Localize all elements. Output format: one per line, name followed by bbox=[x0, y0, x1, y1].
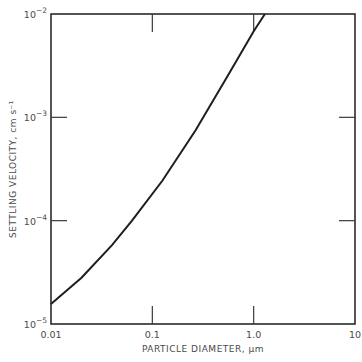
x-ticks: 0.010.11.010 bbox=[40, 14, 361, 340]
y-tick-label: 10−4 bbox=[24, 213, 47, 227]
settling-velocity-chart: 0.010.11.010 10−510−410−310−2 PARTICLE D… bbox=[0, 0, 362, 362]
y-tick-label: 10−5 bbox=[24, 316, 47, 330]
settling-velocity-curve bbox=[51, 14, 265, 304]
series-group bbox=[51, 14, 265, 304]
x-tick-label: 0.01 bbox=[40, 329, 61, 340]
y-tick-label: 10−2 bbox=[24, 6, 47, 20]
x-tick-label: 0.1 bbox=[145, 329, 160, 340]
x-axis-label: PARTICLE DIAMETER, µm bbox=[142, 344, 264, 354]
y-tick-label: 10−3 bbox=[24, 109, 47, 123]
y-ticks: 10−510−410−310−2 bbox=[24, 6, 355, 330]
x-tick-label: 10 bbox=[349, 329, 361, 340]
plot-frame bbox=[51, 14, 355, 324]
x-tick-label: 1.0 bbox=[246, 329, 261, 340]
y-axis-label: SETTLING VELOCITY, cm s⁻¹ bbox=[8, 100, 18, 238]
